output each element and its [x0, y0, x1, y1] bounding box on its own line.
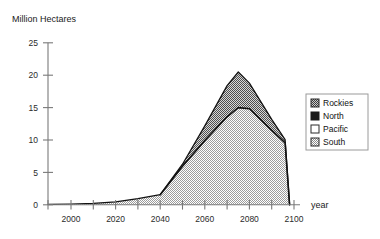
x-tick-label: 2020	[106, 214, 125, 224]
chart-legend: Rockies North Pacific South	[306, 94, 368, 150]
y-tick-label: 0	[33, 200, 38, 210]
legend-swatch-rockies	[311, 99, 319, 107]
legend-label-pacific: Pacific	[323, 124, 349, 134]
stacked-area-chart: Million Hectares 25 20 15 10 5	[0, 0, 380, 239]
y-tick-label: 20	[29, 70, 39, 80]
x-tick-label: 2100	[285, 214, 304, 224]
x-tick-label: 2040	[151, 214, 170, 224]
legend-swatch-north	[311, 112, 319, 120]
legend-swatch-pacific	[311, 125, 319, 133]
legend-swatch-south	[311, 138, 319, 146]
y-tick-label: 25	[29, 38, 39, 48]
x-tick-label: 2060	[195, 214, 214, 224]
legend-label-rockies: Rockies	[323, 98, 353, 108]
y-tick-label: 10	[29, 135, 39, 145]
legend-label-north: North	[323, 111, 344, 121]
legend-item-pacific[interactable]: Pacific	[311, 124, 349, 134]
y-tick-label: 5	[33, 168, 38, 178]
x-axis-title: year	[311, 200, 329, 210]
legend-item-south[interactable]: South	[311, 137, 345, 147]
x-tick-label: 2000	[62, 214, 81, 224]
y-axis-title: Million Hectares	[12, 14, 77, 24]
x-tick-label: 2080	[240, 214, 259, 224]
legend-label-south: South	[323, 137, 345, 147]
legend-item-rockies[interactable]: Rockies	[311, 98, 353, 108]
y-tick-label: 15	[29, 103, 39, 113]
legend-item-north[interactable]: North	[311, 111, 344, 121]
